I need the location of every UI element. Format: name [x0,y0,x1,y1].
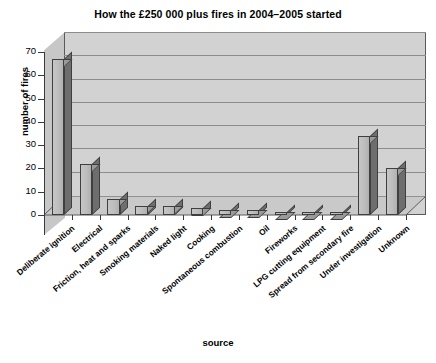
x-axis-tick [406,215,407,220]
bar-front-face [386,168,398,215]
bar-chart: How the £250 000 plus fires in 2004–2005… [0,0,436,363]
x-axis-tick [378,215,379,220]
bar [386,168,398,215]
x-axis-tick [183,215,184,220]
bar-front-face [80,164,92,215]
x-axis-tick [239,215,240,220]
x-axis-tick [211,215,212,220]
bar-front-face [247,210,259,215]
x-axis-tick [100,215,101,220]
x-axis-tick [44,215,45,220]
bar [191,208,203,215]
bar-side-face [64,52,72,215]
bar [52,59,64,215]
bar-front-face [107,199,119,215]
bar [302,212,314,215]
bar [163,206,175,215]
bar-front-face [219,210,231,215]
bar [330,212,342,215]
x-axis-title: source [0,337,436,348]
x-axis-tick [322,215,323,220]
bar [275,212,287,215]
bar-front-face [191,208,203,215]
bar [107,199,119,215]
x-axis-tick [72,215,73,220]
bar-front-face [330,212,342,215]
x-axis-tick [350,215,351,220]
bar-front-face [135,206,147,215]
x-axis-tick [295,215,296,220]
bar [135,206,147,215]
bar-front-face [358,136,370,215]
x-axis-tick [128,215,129,220]
bar [219,210,231,215]
bar [80,164,92,215]
x-axis-tick [267,215,268,220]
bar-front-face [163,206,175,215]
bar [247,210,259,215]
bar-front-face [302,212,314,215]
bar-front-face [275,212,287,215]
x-axis-tick [155,215,156,220]
bar [358,136,370,215]
bar-front-face [52,59,64,215]
